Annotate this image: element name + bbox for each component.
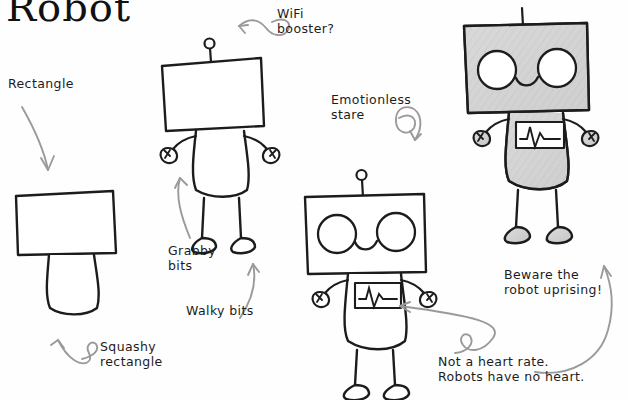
arrow-not-heart-rate <box>400 306 495 353</box>
label-squashy-rectangle: Squashy rectangle <box>100 339 163 369</box>
label-rectangle: Rectangle <box>8 76 74 91</box>
label-walky-bits: Walky bits <box>186 303 254 318</box>
drawing-canvas: Robot <box>0 0 628 400</box>
robot-step-2 <box>161 39 280 254</box>
robot-step-4 <box>464 8 598 243</box>
arrow-rectangle <box>22 107 48 170</box>
arrow-squashy-rectangle <box>58 340 97 363</box>
label-grabby-bits: Grabby bits <box>168 243 216 273</box>
label-emotionless-stare: Emotionless stare <box>331 92 411 122</box>
label-not-heart-rate: Not a heart rate. Robots have no heart. <box>438 354 585 384</box>
label-beware-uprising: Beware the robot uprising! <box>504 267 602 297</box>
arrow-grabby-bits <box>178 178 190 238</box>
robot-tutorial-illustration <box>0 0 628 400</box>
robot-step-3 <box>305 170 436 400</box>
label-wifi-booster: WiFi booster? <box>277 6 334 36</box>
robot-step-1 <box>16 191 116 314</box>
